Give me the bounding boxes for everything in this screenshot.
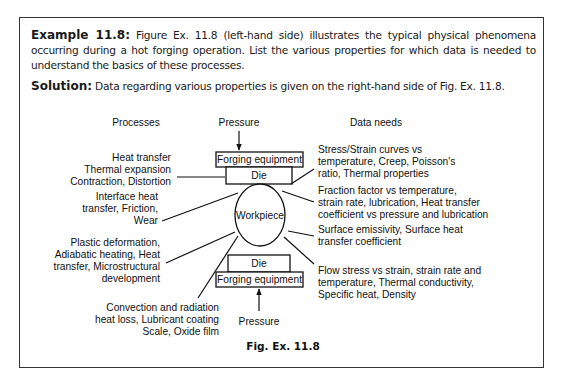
process-3-line-2: Adiabatic heating, Heat — [55, 249, 161, 260]
data-need-3-line-2: transfer coefficient — [318, 236, 401, 247]
data-need-1-line-3: ratio, Thermal properties — [318, 168, 429, 179]
data-need-1: Stress/Strain curves vs temperature, Cre… — [318, 144, 455, 179]
data-need-3-line-1: Surface emissivity, Surface heat — [318, 224, 463, 235]
process-2-line-3: Wear — [134, 215, 159, 226]
leader-process-2 — [162, 193, 238, 221]
data-need-2-line-3: coefficient vs pressure and lubrication — [318, 209, 488, 220]
pressure-bottom-label: Pressure — [239, 316, 280, 327]
forging-equipment-top-label: Forging equipment — [217, 154, 302, 165]
leader-data-need-2 — [282, 191, 314, 202]
data-need-4-line-3: Specific heat, Density — [318, 289, 417, 300]
header-pressure-top: Pressure — [219, 117, 260, 128]
process-2: Interface heat transfer, Friction, Wear — [82, 191, 158, 226]
data-need-1-line-1: Stress/Strain curves vs — [318, 144, 422, 155]
data-need-2: Fraction factor vs temperature, strain r… — [318, 185, 488, 220]
process-1-line-1: Heat transfer — [112, 152, 171, 163]
process-2-line-2: transfer, Friction, — [82, 203, 158, 214]
data-need-2-line-1: Fraction factor vs temperature, — [318, 185, 457, 196]
forging-diagram: Processes Pressure Data needs Forging eq… — [0, 0, 565, 381]
data-need-4-line-2: temperature, Thermal conductivity, — [318, 277, 474, 288]
process-4-line-3: Scale, Oxide film — [143, 326, 219, 337]
workpiece-label: Workpiece — [236, 210, 284, 221]
process-3-line-4: development — [102, 273, 161, 284]
data-need-3: Surface emissivity, Surface heat transfe… — [318, 224, 463, 247]
header-data-needs: Data needs — [350, 117, 402, 128]
leader-data-need-3 — [288, 231, 314, 236]
forging-equipment-bottom-label: Forging equipment — [217, 274, 302, 285]
data-need-1-line-2: temperature, Creep, Poisson's — [318, 156, 455, 167]
leader-data-need-1 — [291, 169, 314, 184]
die-bottom-label: Die — [251, 258, 267, 269]
header-processes: Processes — [112, 117, 160, 128]
data-need-4-line-1: Flow stress vs strain, strain rate and — [318, 265, 481, 276]
process-4-line-1: Convection and radiation — [106, 302, 219, 313]
process-2-line-1: Interface heat — [96, 191, 158, 202]
process-1: Heat transfer Thermal expansion Contract… — [70, 152, 171, 187]
process-4: Convection and radiation heat loss, Lubr… — [95, 302, 219, 337]
process-3-line-1: Plastic deformation, — [71, 237, 160, 248]
process-3: Plastic deformation, Adiabatic heating, … — [54, 237, 161, 284]
process-1-line-3: Contraction, Distortion — [70, 176, 171, 187]
process-1-line-2: Thermal expansion — [84, 164, 171, 175]
leader-process-3 — [166, 232, 235, 263]
die-top-label: Die — [251, 170, 267, 181]
data-need-4: Flow stress vs strain, strain rate and t… — [318, 265, 481, 300]
process-3-line-3: transfer, Microstructural — [54, 261, 160, 272]
figure-caption: Fig. Ex. 11.8 — [246, 340, 319, 352]
process-4-line-2: heat loss, Lubricant coating — [95, 314, 219, 325]
data-need-2-line-2: strain rate, lubrication, Heat transfer — [318, 197, 481, 208]
